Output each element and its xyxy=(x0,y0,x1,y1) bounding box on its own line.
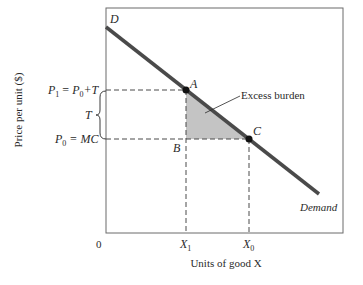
label-excess-burden: Excess burden xyxy=(241,89,305,101)
label-p0: P0 = MC xyxy=(54,132,99,148)
label-b: B xyxy=(173,141,181,155)
point-a xyxy=(183,87,190,94)
label-a: A xyxy=(189,77,198,91)
guide-lines xyxy=(106,90,249,233)
point-c xyxy=(246,136,253,143)
label-x0: X0 xyxy=(242,237,254,253)
label-d: D xyxy=(109,12,119,26)
excess-burden-leader xyxy=(205,96,240,113)
label-origin: 0 xyxy=(96,238,102,250)
label-demand: Demand xyxy=(299,201,338,213)
demand-curve xyxy=(106,27,319,194)
y-axis-title: Price per unit ($) xyxy=(12,72,25,147)
excess-burden-diagram: D A B C Demand Excess burden P1 = P0+T T… xyxy=(0,0,363,285)
label-t: T xyxy=(85,108,93,122)
label-c: C xyxy=(253,124,262,138)
x-axis-title: Units of good X xyxy=(190,257,261,269)
label-p1: P1 = P0+T xyxy=(47,83,100,99)
label-x1: X1 xyxy=(179,237,191,253)
